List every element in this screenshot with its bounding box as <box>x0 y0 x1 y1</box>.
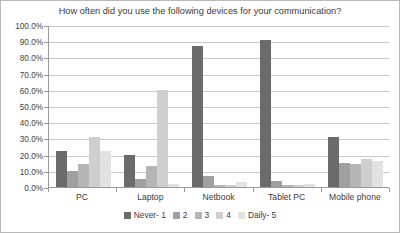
y-axis-tick-label: 50.0% <box>0 103 43 112</box>
legend-item[interactable]: 4 <box>216 210 231 220</box>
bar <box>168 184 179 187</box>
bar <box>339 163 350 187</box>
legend-item[interactable]: Never- 1 <box>124 210 166 220</box>
bar-group <box>49 26 117 187</box>
y-axis-tick-label: 100.0% <box>0 22 43 31</box>
y-axis-tick-mark <box>44 75 48 76</box>
plot-area <box>48 26 389 188</box>
bar <box>271 181 282 187</box>
legend-label: 4 <box>226 210 231 220</box>
x-axis-tick-mark <box>389 188 390 192</box>
y-axis-tick-mark <box>44 172 48 173</box>
bar <box>372 161 383 187</box>
y-axis-tick-mark <box>44 107 48 108</box>
bar <box>135 179 146 187</box>
y-axis-tick-label: 70.0% <box>0 70 43 79</box>
legend-swatch-icon <box>124 212 131 219</box>
bar <box>236 182 247 187</box>
bar-group <box>322 26 390 187</box>
bar <box>328 137 339 187</box>
y-axis-tick-mark <box>44 26 48 27</box>
x-axis-category-label: PC <box>76 192 88 202</box>
bar <box>56 151 67 187</box>
y-axis-tick-label: 80.0% <box>0 54 43 63</box>
legend-label: 3 <box>205 210 210 220</box>
bar <box>225 185 236 187</box>
bar <box>100 151 111 187</box>
legend-swatch-icon <box>216 212 223 219</box>
bar <box>146 166 157 187</box>
y-axis-tick-label: 10.0% <box>0 167 43 176</box>
bar <box>304 184 315 187</box>
bar <box>361 159 372 187</box>
bar <box>260 40 271 187</box>
x-axis-tick-mark <box>321 188 322 192</box>
y-axis-tick-mark <box>44 139 48 140</box>
legend-label: Never- 1 <box>134 210 166 220</box>
chart-title: How often did you use the following devi… <box>1 6 399 16</box>
y-axis-tick-label: 40.0% <box>0 119 43 128</box>
bar <box>293 185 304 187</box>
y-axis-tick-label: 90.0% <box>0 38 43 47</box>
legend-item[interactable]: Daily- 5 <box>238 210 276 220</box>
legend-swatch-icon <box>195 212 202 219</box>
bar <box>157 90 168 187</box>
bar <box>124 155 135 187</box>
bar <box>203 176 214 187</box>
y-axis-tick-mark <box>44 42 48 43</box>
y-axis-tick-mark <box>44 58 48 59</box>
x-axis-tick-mark <box>48 188 49 192</box>
bar <box>192 46 203 187</box>
bar <box>89 137 100 187</box>
legend-item[interactable]: 2 <box>173 210 188 220</box>
y-axis-tick-mark <box>44 123 48 124</box>
chart-legend: Never- 1234Daily- 5 <box>1 210 399 220</box>
x-axis-category-label: Laptop <box>137 192 163 202</box>
y-axis-tick-label: 0.0% <box>0 184 43 193</box>
legend-label: 2 <box>183 210 188 220</box>
bar <box>78 164 89 187</box>
bar <box>350 164 361 187</box>
legend-label: Daily- 5 <box>248 210 276 220</box>
bar-group <box>185 26 253 187</box>
legend-swatch-icon <box>238 212 245 219</box>
x-axis-tick-mark <box>184 188 185 192</box>
legend-swatch-icon <box>173 212 180 219</box>
y-axis-tick-mark <box>44 91 48 92</box>
x-axis-tick-mark <box>253 188 254 192</box>
bar <box>282 185 293 187</box>
y-axis-tick-mark <box>44 156 48 157</box>
y-axis-tick-label: 60.0% <box>0 86 43 95</box>
legend-item[interactable]: 3 <box>195 210 210 220</box>
x-axis-category-label: Tablet PC <box>268 192 305 202</box>
bar-chart: How often did you use the following devi… <box>0 0 400 233</box>
y-axis-tick-label: 20.0% <box>0 151 43 160</box>
bar <box>214 185 225 187</box>
bar-group <box>117 26 185 187</box>
bar-group <box>254 26 322 187</box>
x-axis-category-label: Mobile phone <box>329 192 381 202</box>
x-axis-tick-mark <box>116 188 117 192</box>
bar <box>67 171 78 187</box>
x-axis-category-label: Netbook <box>202 192 234 202</box>
y-axis-tick-label: 30.0% <box>0 135 43 144</box>
